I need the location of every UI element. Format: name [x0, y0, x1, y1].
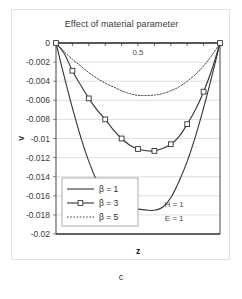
- series-marker-beta-3: [168, 142, 173, 147]
- chart-legend[interactable]: β = 1β = 3β = 5: [62, 178, 138, 226]
- chart-frame: Effect of material parameter 0-0.002-0.0…: [11, 9, 230, 260]
- series-marker-beta-3: [218, 41, 223, 46]
- series-marker-beta-3: [86, 96, 91, 101]
- y-axis-label: v: [16, 136, 26, 141]
- series-marker-beta-3: [136, 147, 141, 152]
- y-axis-tick-labels: 0-0.002-0.004-0.006-0.008-0.01-0.012-0.0…: [26, 38, 56, 239]
- chart-plot-area: 0-0.002-0.004-0.006-0.008-0.01-0.012-0.0…: [12, 10, 231, 261]
- y-tick-label: -0.02: [31, 229, 51, 239]
- y-tick-label: -0.012: [26, 153, 50, 163]
- series-marker-beta-3: [185, 122, 190, 127]
- h-parameter: H = 1: [164, 200, 184, 209]
- series-marker-beta-3: [201, 89, 206, 94]
- y-tick-label: -0.01: [31, 134, 51, 144]
- chart-annotations: 0.5H = 1E = 1: [132, 48, 184, 222]
- y-tick-label: -0.008: [26, 114, 50, 124]
- series-marker-beta-3: [54, 41, 59, 46]
- y-tick-label: -0.014: [26, 172, 50, 182]
- y-tick-label: -0.004: [26, 76, 50, 86]
- y-tick-label: -0.006: [26, 95, 50, 105]
- e-parameter: E = 1: [165, 214, 184, 223]
- figure-root: Effect of material parameter 0-0.002-0.0…: [0, 0, 242, 299]
- series-marker-beta-3: [70, 68, 75, 73]
- series-marker-beta-3: [152, 149, 157, 154]
- figure-caption: c: [0, 272, 242, 282]
- y-tick-label: -0.016: [26, 191, 50, 201]
- y-tick-label: 0: [45, 38, 50, 48]
- series-marker-beta-3: [119, 136, 124, 141]
- x-mid-label: 0.5: [132, 48, 144, 57]
- legend-label-beta-1: β = 1: [99, 184, 119, 194]
- legend-marker-beta-3: [78, 201, 83, 206]
- x-axis-label: z: [136, 246, 140, 256]
- legend-label-beta-5: β = 5: [99, 212, 119, 222]
- y-tick-label: -0.002: [26, 57, 50, 67]
- y-tick-label: -0.018: [26, 210, 50, 220]
- series-marker-beta-3: [103, 117, 108, 122]
- legend-label-beta-3: β = 3: [99, 198, 119, 208]
